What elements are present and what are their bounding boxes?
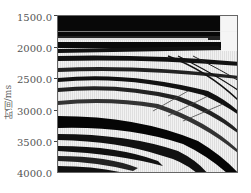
seismic-section	[57, 15, 238, 173]
y-tick-4000: 4000.0	[0, 169, 52, 179]
y-tick-2000: 2000.0	[0, 44, 52, 54]
seismic-image	[58, 16, 238, 173]
y-tick-3500: 3500.0	[0, 138, 52, 148]
y-tick-2500: 2500.0	[0, 75, 52, 85]
y-tick-1500: 1500.0	[0, 13, 52, 23]
y-tick-3000: 3000.0	[0, 107, 52, 117]
